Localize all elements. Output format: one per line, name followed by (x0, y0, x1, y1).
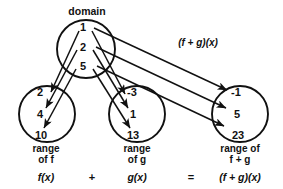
formula-fg-sum: (f + g)(x) (219, 171, 261, 183)
range-f-element-4: 4 (37, 108, 44, 120)
function-mapping-diagram: domain 1 2 5 2 4 10 -3 1 13 -1 5 23 (f +… (0, 0, 283, 189)
range-g-element-neg3: -3 (127, 86, 137, 98)
caption-range-g-line2: of g (128, 154, 146, 165)
range-f-element-2: 2 (37, 86, 43, 98)
edge-label-fg: (f + g)(x) (178, 37, 218, 48)
caption-range-fg-line1: range of (220, 143, 260, 154)
formula-gx: g(x) (126, 171, 147, 183)
formula-equals-operator: = (188, 171, 194, 183)
caption-range-f-line1: range (32, 143, 60, 154)
domain-element-1: 1 (80, 21, 86, 33)
formula-plus-operator: + (89, 171, 95, 183)
range-g-element-1: 1 (130, 108, 136, 120)
range-fg-element-neg1: -1 (231, 86, 241, 98)
range-f-element-10: 10 (35, 129, 47, 141)
arrow-5-to-g13 (93, 69, 130, 128)
arrow-2-to-g1 (93, 50, 128, 108)
domain-title: domain (68, 5, 105, 17)
range-fg-element-5: 5 (234, 108, 240, 120)
range-g-element-13: 13 (127, 129, 139, 141)
caption-range-g-line1: range (123, 143, 151, 154)
domain-element-2: 2 (80, 41, 86, 53)
range-fg-element-23: 23 (232, 129, 244, 141)
formula-fx: f(x) (38, 171, 55, 183)
diagram-canvas: domain 1 2 5 2 4 10 -3 1 13 -1 5 23 (f +… (0, 0, 283, 189)
domain-element-5: 5 (80, 60, 86, 72)
caption-range-fg-line2: f + g (230, 154, 251, 165)
arrow-2-to-f4 (46, 50, 77, 108)
caption-range-f-line2: of f (38, 154, 54, 165)
arrow-1-to-f2 (51, 31, 79, 92)
